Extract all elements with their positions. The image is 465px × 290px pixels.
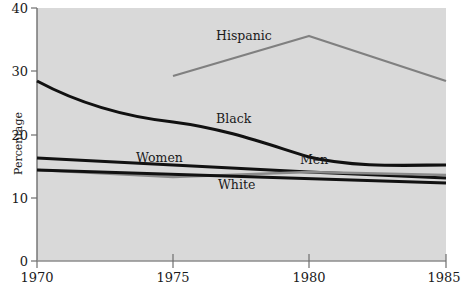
y-axis-title: Percentage <box>12 112 25 175</box>
x-tick-label-1970: 1970 <box>7 270 67 285</box>
x-tick-label-1985: 1985 <box>414 270 465 285</box>
y-tick-label-40: 40 <box>0 1 28 16</box>
series-label-men: Men <box>300 152 328 167</box>
plot-area-background <box>37 8 446 261</box>
series-label-hispanic: Hispanic <box>216 28 272 43</box>
y-tick-label-10: 10 <box>0 191 28 206</box>
series-label-women: Women <box>136 150 183 165</box>
y-tick-label-0: 0 <box>0 254 28 269</box>
x-tick-label-1980: 1980 <box>279 270 339 285</box>
x-tick-label-1975: 1975 <box>143 270 203 285</box>
series-label-white: White <box>218 177 255 192</box>
series-label-black: Black <box>216 111 251 126</box>
y-tick-label-20: 20 <box>0 128 28 143</box>
y-tick-label-30: 30 <box>0 64 28 79</box>
